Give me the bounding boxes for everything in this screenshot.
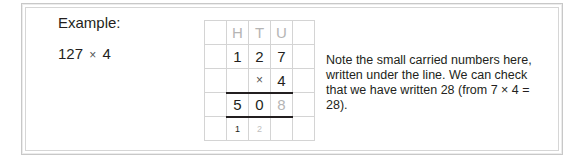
carry-tens: 2: [249, 117, 271, 141]
grid-header-row: H T U: [205, 21, 315, 45]
multiplier-digit: 4: [271, 69, 293, 93]
result-hundreds: 5: [227, 93, 249, 117]
digit-units: 7: [271, 45, 293, 69]
grid-cell: [205, 117, 227, 141]
header-tens: T: [249, 21, 271, 45]
grid-cell: [293, 69, 315, 93]
carries-row: 1 2: [205, 117, 315, 141]
digit-tens: 2: [249, 45, 271, 69]
grid-cell: [205, 69, 227, 93]
problem-left-operand: 127: [58, 45, 83, 62]
result-row: 5 0 8: [205, 93, 315, 117]
grid-cell: [293, 93, 315, 117]
grid-cell: [227, 69, 249, 93]
grid-cell: [293, 21, 315, 45]
result-units: 8: [271, 93, 293, 117]
digit-hundreds: 1: [227, 45, 249, 69]
problem-right-operand: 4: [102, 45, 110, 62]
multiply-sign-cell: ×: [249, 69, 271, 93]
header-units: U: [271, 21, 293, 45]
problem-expression: 127 × 4: [58, 45, 111, 62]
grid-cell: [205, 21, 227, 45]
place-value-grid: H T U 1 2 7 × 4 5 0 8 1 2: [204, 20, 315, 141]
grid-cell: [293, 45, 315, 69]
grid-cell: [271, 117, 293, 141]
grid-cell: [205, 45, 227, 69]
grid-cell: [293, 117, 315, 141]
example-heading: Example:: [58, 14, 121, 31]
multiply-sign: ×: [87, 48, 98, 62]
result-tens: 0: [249, 93, 271, 117]
multiplier-row: × 4: [205, 69, 315, 93]
explanation-note: Note the small carried numbers here, wri…: [326, 53, 541, 113]
grid-cell: [205, 93, 227, 117]
carry-hundreds: 1: [227, 117, 249, 141]
header-hundreds: H: [227, 21, 249, 45]
multiplicand-row: 1 2 7: [205, 45, 315, 69]
